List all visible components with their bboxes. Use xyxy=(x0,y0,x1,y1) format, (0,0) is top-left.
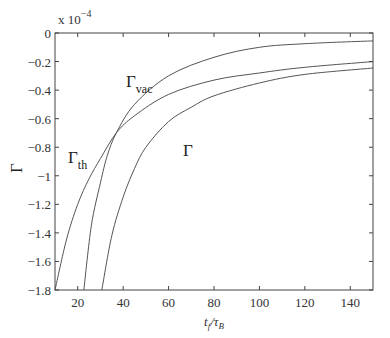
x-tick-label: 80 xyxy=(208,295,221,310)
x-tick-label: 20 xyxy=(71,295,84,310)
y-tick-label: −0.6 xyxy=(27,112,51,127)
y-tick-label: −0.8 xyxy=(27,140,51,155)
y-multiplier: x 10−4 xyxy=(58,8,91,27)
x-tick-label: 140 xyxy=(341,295,361,310)
chart-canvas: 20406080100120140 0−0.2−0.4−0.6−0.8−1−1.… xyxy=(0,0,390,338)
plot-frame xyxy=(55,33,373,290)
chart-curves xyxy=(55,41,373,290)
y-axis-label: Γ xyxy=(7,163,26,173)
y-tick-label: −1.8 xyxy=(27,283,51,298)
annotation-gamma: Γ xyxy=(183,141,193,160)
x-tick-label: 100 xyxy=(250,295,270,310)
x-tick-label: 120 xyxy=(295,295,315,310)
annotation-gamma-vac: Γvac xyxy=(126,72,152,96)
y-tick-label: 0 xyxy=(45,26,52,41)
x-axis-label: tf/τB xyxy=(204,314,224,331)
annotation-gamma-th: Γth xyxy=(68,148,87,172)
x-tick-label: 60 xyxy=(162,295,175,310)
y-tick-label: −1 xyxy=(37,169,51,184)
y-tick-label: −0.4 xyxy=(27,83,51,98)
series-line-2 xyxy=(102,68,373,290)
y-tick-label: −1.2 xyxy=(27,197,51,212)
y-tick-label: −0.2 xyxy=(27,55,51,70)
y-tick-label: −1.4 xyxy=(27,226,51,241)
x-tick-label: 40 xyxy=(117,295,130,310)
x-axis-ticks: 20406080100120140 xyxy=(71,33,360,310)
y-tick-label: −1.6 xyxy=(27,254,51,269)
